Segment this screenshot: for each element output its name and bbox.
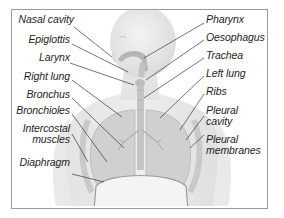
leader-nasal-cavity xyxy=(74,27,112,57)
label-bronchus: Bronchus xyxy=(14,89,70,100)
label-left-lung: Left lung xyxy=(206,68,245,79)
label-oesophagus: Oesophagus xyxy=(206,32,265,43)
label-pleural-membranes-line2: membranes xyxy=(206,145,261,156)
label-intercostal-muscles-line2: muscles xyxy=(14,134,70,145)
label-ribs: Ribs xyxy=(206,86,227,97)
label-epiglottis: Epiglottis xyxy=(14,34,70,45)
label-trachea: Trachea xyxy=(206,50,243,61)
label-pharynx: Pharynx xyxy=(206,14,244,25)
label-right-lung: Right lung xyxy=(14,71,70,82)
label-bronchioles: Bronchioles xyxy=(12,105,70,116)
trachea xyxy=(137,86,144,170)
diaphragm xyxy=(94,176,188,211)
label-diaphragm: Diaphragm xyxy=(14,157,70,168)
label-nasal-cavity: Nasal cavity xyxy=(14,14,74,25)
label-pleural-cavity-line2: cavity xyxy=(206,116,232,127)
label-larynx: Larynx xyxy=(14,52,70,63)
